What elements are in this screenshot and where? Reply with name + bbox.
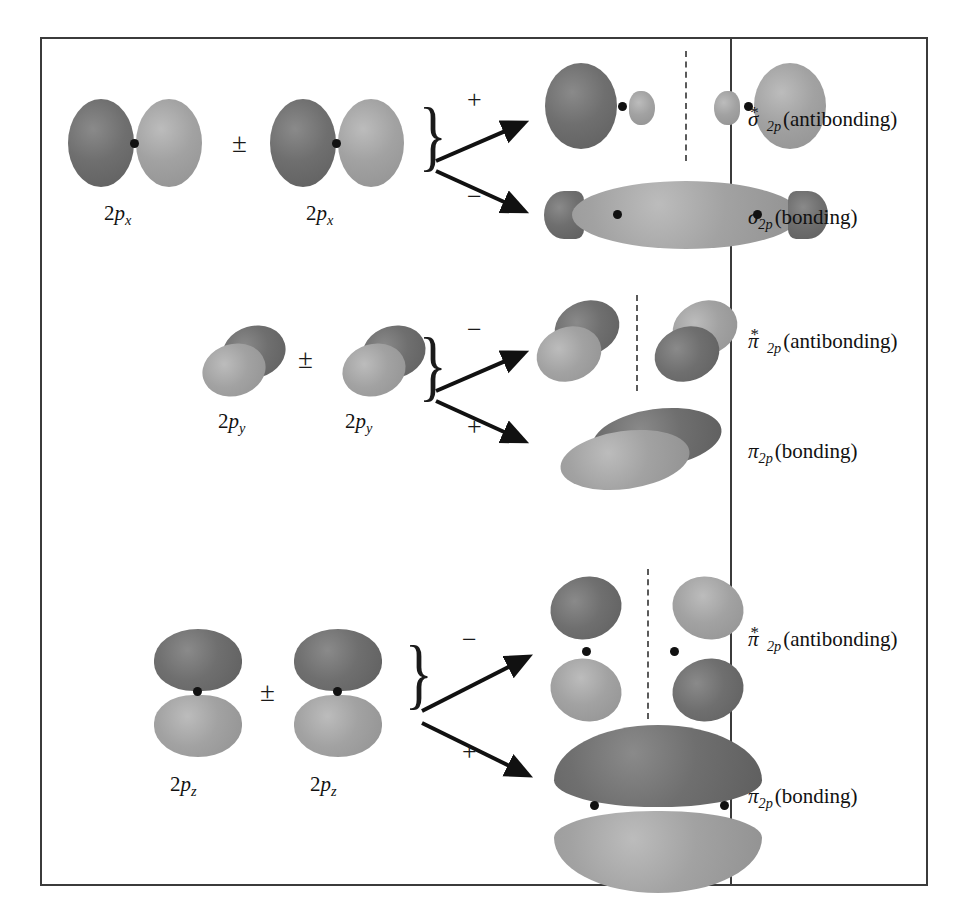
- combination-arrows: [416, 639, 546, 779]
- mo-label-pi-2py: π2p(bonding): [748, 439, 858, 464]
- nucleus-dot: [582, 647, 591, 656]
- mo-lobe-dark-left: [545, 63, 617, 149]
- orbital-label-2px-left: 2px: [104, 203, 131, 227]
- mo-label-sigma-2p: σ2p(bonding): [748, 205, 857, 230]
- orbital-label-2px-right: 2px: [306, 203, 333, 227]
- orbital-lobe-dark: [154, 629, 242, 691]
- nucleus-dot: [753, 210, 762, 219]
- mo-lobe-light-lower-left: [542, 649, 630, 730]
- orbital-label-2py-right: 2py: [345, 411, 372, 435]
- figure-frame: 2px ± 2px } + −: [40, 37, 928, 886]
- nucleus-dot: [613, 210, 622, 219]
- nucleus-dot: [590, 801, 599, 810]
- orbital-lobe-dark: [270, 99, 336, 187]
- sign-minus-sigma-bonding: −: [467, 184, 482, 210]
- cropped-text-above-figure: [100, 0, 520, 16]
- nucleus-dot: [720, 801, 729, 810]
- mo-label-pi-star-2py: π*2p(antibonding): [748, 329, 898, 354]
- nucleus-dot: [670, 647, 679, 656]
- sign-plus-pi-bonding: +: [467, 414, 482, 440]
- sign-minus-pi-antibonding: −: [462, 627, 477, 653]
- orbital-lobe-light: [338, 99, 404, 187]
- orbital-lobe-dark: [294, 629, 382, 691]
- mo-lobe-light-right: [754, 63, 826, 149]
- sign-plus-pi-bonding: +: [462, 739, 477, 765]
- plus-minus-symbol: ±: [232, 130, 247, 157]
- mo-label-sigma-star-2p: σ*2p(antibonding): [748, 107, 897, 132]
- orbital-lobe-light: [136, 99, 202, 187]
- sign-minus-pi-antibonding: −: [467, 317, 482, 343]
- mo-lobe-light-small-right: [714, 91, 740, 125]
- combination-arrows: [430, 329, 540, 449]
- sign-plus-sigma-antibonding: +: [467, 87, 482, 113]
- nucleus-dot: [744, 102, 753, 111]
- plus-minus-symbol: ±: [298, 346, 313, 373]
- plus-minus-symbol: ±: [260, 679, 275, 706]
- orbital-label-2pz-left: 2pz: [170, 774, 197, 798]
- orbital-lobe-light: [294, 695, 382, 757]
- nucleus-dot: [618, 102, 627, 111]
- nucleus-dot: [193, 687, 202, 696]
- orbital-lobe-dark: [68, 99, 134, 187]
- nucleus-dot: [332, 139, 341, 148]
- mo-lobe-light-upper-right: [664, 567, 752, 648]
- nodal-plane-dashed: [685, 51, 687, 161]
- mo-lobe-light-small-left: [629, 91, 655, 125]
- nodal-plane-dashed: [647, 569, 649, 719]
- nodal-plane-dashed: [636, 295, 638, 391]
- nucleus-dot: [333, 687, 342, 696]
- mo-label-pi-2pz: π2p(bonding): [748, 784, 858, 809]
- mo-lobe-dark-upper-left: [542, 567, 630, 648]
- mo-label-pi-star-2pz: π*2p(antibonding): [748, 627, 898, 652]
- combination-arrows: [430, 99, 540, 219]
- orbital-lobe-light: [154, 695, 242, 757]
- orbital-label-2py-left: 2py: [218, 411, 245, 435]
- orbital-label-2pz-right: 2pz: [310, 774, 337, 798]
- mo-lobe-dark-lower-right: [664, 649, 752, 730]
- nucleus-dot: [130, 139, 139, 148]
